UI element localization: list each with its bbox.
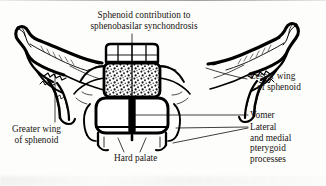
label-greater-wing-line-2: of sphenoid bbox=[15, 135, 59, 145]
label-pterygoid-line-3: pterygoid bbox=[250, 143, 286, 153]
label-lesser-wing: Lesser wing of sphenoid bbox=[250, 71, 301, 92]
label-lesser-wing-line-2: of sphenoid bbox=[250, 82, 301, 93]
label-pterygoid-line-4: processes bbox=[250, 154, 286, 164]
figure-panel: Sphenoid contribution to sphenobasilar s… bbox=[0, 0, 326, 186]
label-vomer-line-1: Vomer bbox=[250, 110, 275, 120]
label-pterygoid-processes: Lateral and medial pterygoid processes bbox=[250, 122, 291, 164]
label-pterygoid-line-1: Lateral bbox=[250, 122, 276, 132]
label-greater-wing-line-1: Greater wing bbox=[12, 124, 61, 134]
label-hard-palate-line-1: Hard palate bbox=[114, 153, 157, 163]
label-pterygoid-line-2: and medial bbox=[250, 133, 291, 143]
label-vomer: Vomer bbox=[250, 110, 275, 121]
page-bottom-artifact bbox=[0, 176, 326, 186]
figure-title-line-2: sphenobasilar synchondrosis bbox=[90, 21, 197, 31]
figure-title-line-1: Sphenoid contribution to bbox=[98, 10, 191, 20]
label-lesser-wing-line-1: Lesser wing bbox=[250, 71, 295, 81]
label-greater-wing: Greater wing of sphenoid bbox=[12, 124, 61, 145]
figure-title: Sphenoid contribution to sphenobasilar s… bbox=[63, 10, 225, 31]
label-hard-palate: Hard palate bbox=[114, 153, 157, 164]
